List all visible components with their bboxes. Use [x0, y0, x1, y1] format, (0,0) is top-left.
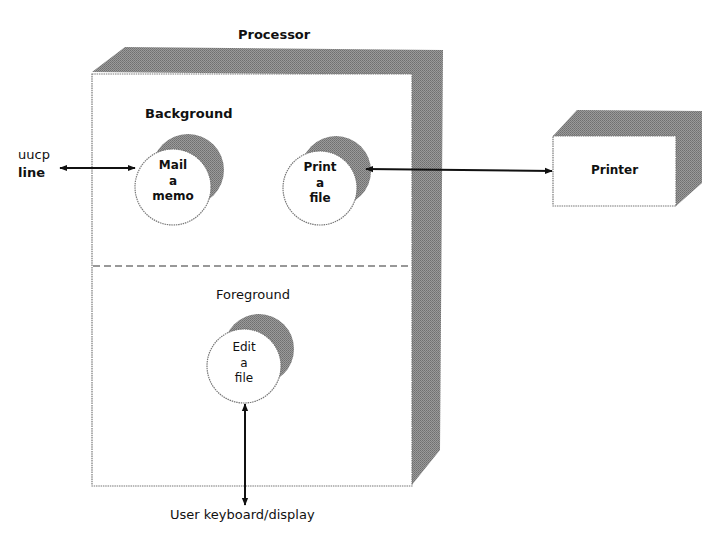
processor-title: Processor	[238, 28, 310, 41]
process-label-mail: Mail a memo	[138, 158, 208, 205]
printer-box	[553, 110, 702, 206]
process-label-line: Edit	[209, 340, 279, 356]
process-label-line: file	[285, 191, 355, 207]
user-keyboard-display-label: User keyboard/display	[170, 508, 315, 521]
process-label-line: a	[285, 176, 355, 192]
printer-label: Printer	[591, 164, 638, 176]
process-label-line: Mail	[138, 158, 208, 174]
process-diagram	[0, 0, 721, 543]
process-label-line: a	[138, 174, 208, 190]
process-label-line: a	[209, 356, 279, 372]
uucp-line-label: line	[18, 166, 45, 179]
process-label-line: memo	[138, 189, 208, 205]
processor-box-front	[92, 74, 412, 486]
process-label-edit: Edit a file	[209, 340, 279, 387]
uucp-label: uucp	[18, 148, 50, 161]
process-label-line: Print	[285, 160, 355, 176]
background-section-label: Background	[145, 107, 233, 120]
process-label-print: Print a file	[285, 160, 355, 207]
process-label-line: file	[209, 371, 279, 387]
foreground-section-label: Foreground	[216, 288, 290, 301]
